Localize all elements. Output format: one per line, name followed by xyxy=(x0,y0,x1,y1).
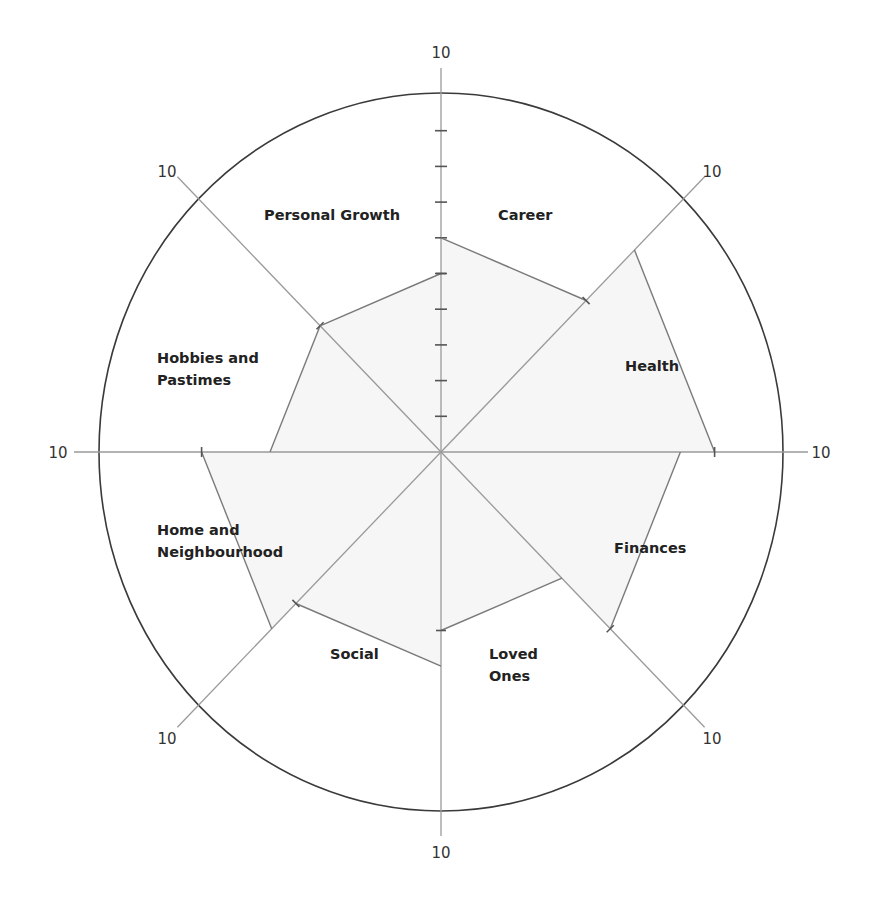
sector-label-social: Social xyxy=(330,646,379,662)
sector-label-career: Career xyxy=(498,207,553,223)
axis-max-label: 10 xyxy=(431,844,450,862)
sector-label-personal-growth: Personal Growth xyxy=(264,207,400,223)
sector-label-health: Health xyxy=(625,358,679,374)
axes xyxy=(74,68,808,836)
axis-max-label: 10 xyxy=(431,44,450,62)
wheel-of-life-chart: 1010101010101010 CareerHealthFinancesLov… xyxy=(0,0,876,912)
sector-label-finances: Finances xyxy=(614,540,686,556)
axis-max-label: 10 xyxy=(157,163,176,181)
sector-label-hobbies-and-pastimes: Hobbies andPastimes xyxy=(157,350,259,388)
axis-max-label: 10 xyxy=(48,444,67,462)
axis-max-label: 10 xyxy=(811,444,830,462)
axis-max-label: 10 xyxy=(702,163,721,181)
axis-max-label: 10 xyxy=(157,730,176,748)
axis-max-label: 10 xyxy=(702,730,721,748)
sector-label-loved-ones: LovedOnes xyxy=(489,646,538,684)
